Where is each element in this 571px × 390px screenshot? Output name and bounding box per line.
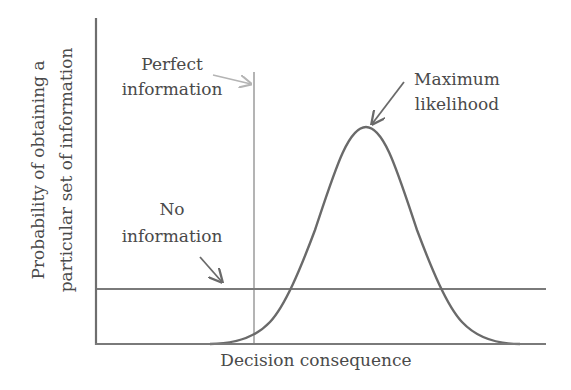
- maximum-likelihood-label-line1: Maximum: [414, 69, 500, 89]
- y-axis-label-line1: Probability of obtaining a: [28, 60, 48, 279]
- decision-consequence-diagram: Perfect information Maximum likelihood N…: [0, 0, 571, 390]
- x-axis-label: Decision consequence: [220, 350, 411, 370]
- perfect-information-label-line1: Perfect: [141, 54, 203, 74]
- no-information-arrow-icon: [200, 257, 222, 282]
- bell-curve: [210, 127, 520, 344]
- no-information-label-line1: No: [159, 199, 184, 219]
- maximum-likelihood-arrow-icon: [372, 82, 404, 124]
- maximum-likelihood-label-line2: likelihood: [415, 94, 500, 114]
- perfect-information-label-line2: information: [122, 79, 223, 99]
- no-information-label-line2: information: [122, 226, 223, 246]
- y-axis-label-line2: particular set of information: [56, 48, 76, 293]
